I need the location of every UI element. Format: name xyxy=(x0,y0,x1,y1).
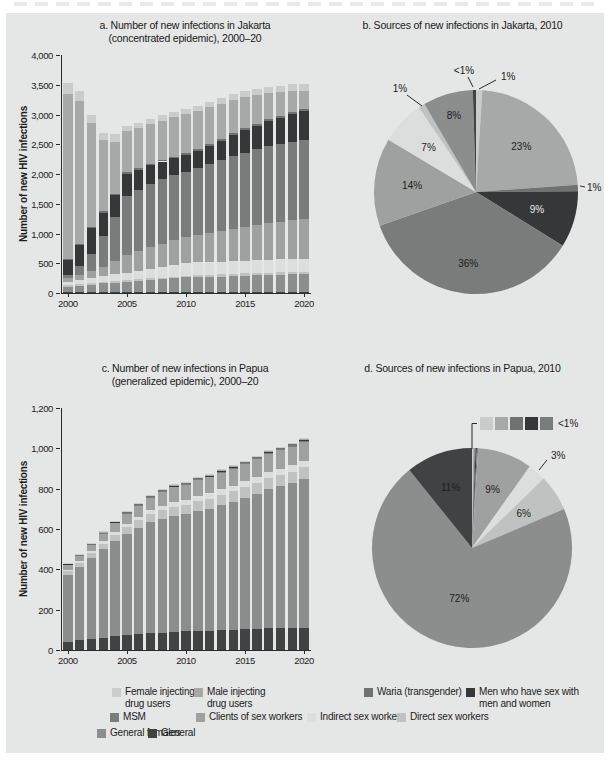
bar-segment-clients xyxy=(63,278,72,282)
legend-swatch-indirect xyxy=(307,713,316,722)
bar-segment-general xyxy=(122,292,131,293)
bar-segment-indirect xyxy=(158,506,167,510)
bar-segment-direct xyxy=(240,273,249,275)
bar-segment-msmw xyxy=(252,457,261,458)
bar-segment-indirect xyxy=(299,259,308,272)
bar-segment-direct xyxy=(110,535,119,541)
x-tick-mark xyxy=(127,651,128,654)
bar-segment-clients xyxy=(193,235,202,262)
bar-segment-indirect xyxy=(205,262,214,275)
bar-segment-msmw xyxy=(158,490,167,491)
bar-segment-indirect xyxy=(75,280,84,284)
bar-segment-female_idu xyxy=(276,86,285,92)
bar-segment-direct xyxy=(146,514,155,522)
bar-segment-male_idu xyxy=(276,92,285,116)
pie-svg-d: 9%3%6%72%11%<1% xyxy=(355,410,611,658)
bar-segment-direct xyxy=(63,571,72,575)
bar-segment-general xyxy=(181,292,190,293)
bar-segment-general xyxy=(87,639,96,650)
bar-segment-male_idu xyxy=(99,140,108,211)
bar-segment-direct xyxy=(264,273,273,275)
bar-segment-male_idu xyxy=(134,128,143,168)
bar-segment-indirect xyxy=(205,494,214,499)
bar-segment-general xyxy=(158,633,167,650)
bar-segment-msm xyxy=(299,441,308,442)
bar-segment-direct xyxy=(110,281,119,283)
bar-segment-female_idu xyxy=(181,109,190,114)
pie-leader-line-indirect xyxy=(539,460,547,470)
callout-swatch-msm xyxy=(540,417,553,430)
pie-svg-b: 1%23%1%9%36%14%7%1%8%<1% xyxy=(360,55,611,303)
bar-segment-direct xyxy=(87,283,96,285)
bar-segment-general_females xyxy=(193,511,202,631)
bar-segment-male_idu xyxy=(299,91,308,109)
bar-segment-general xyxy=(240,629,249,650)
bar-segment-direct xyxy=(240,487,249,498)
bar-segment-general xyxy=(63,292,72,293)
bar-segment-general xyxy=(240,292,249,293)
bar-segment-male_idu xyxy=(122,131,131,172)
bar-segment-msmw xyxy=(217,471,226,472)
bar-segment-general_females xyxy=(276,275,285,292)
bar-segment-direct xyxy=(288,472,297,483)
bar-segment-clients xyxy=(217,231,226,261)
bar-segment-female_idu xyxy=(264,87,273,93)
y-tick-mark xyxy=(56,489,60,490)
bar-segment-msm xyxy=(75,266,84,275)
legend-label-waria: Waria (transgender) xyxy=(377,686,462,698)
bar-segment-indirect xyxy=(276,259,285,272)
bar-segment-clients xyxy=(229,469,238,486)
bar-segment-indirect xyxy=(87,278,96,283)
bar-segment-general_females xyxy=(288,274,297,292)
bar-segment-indirect xyxy=(169,265,178,277)
bar-segment-general_females xyxy=(240,276,249,292)
bar-segment-direct xyxy=(122,527,131,534)
bar-segment-direct xyxy=(87,553,96,558)
bar-segment-female_idu xyxy=(134,123,143,128)
bar-segment-indirect xyxy=(110,274,119,281)
bar-segment-indirect xyxy=(264,472,273,478)
bar-segment-general_females xyxy=(288,483,297,628)
pie-outside-label-female_idu: 1% xyxy=(501,71,516,82)
bar-segment-direct xyxy=(288,272,297,274)
bar-segment-msm xyxy=(229,156,238,229)
bar-segment-general xyxy=(193,631,202,650)
bar-segment-indirect xyxy=(63,570,72,572)
bar-segment-male_idu xyxy=(75,101,84,244)
bar-segment-clients xyxy=(122,255,131,273)
bar-segment-msm xyxy=(264,146,273,223)
bar-segment-msm xyxy=(205,476,214,477)
bar-segment-msm xyxy=(299,140,308,219)
bar-segment-general xyxy=(264,292,273,293)
bar-segment-direct xyxy=(229,274,238,276)
bar-segment-clients xyxy=(181,485,190,500)
bar-segment-msmw xyxy=(110,195,119,217)
bar-segment-female_idu xyxy=(217,98,226,103)
bar-segment-msm xyxy=(229,467,238,468)
bar-segment-direct xyxy=(205,275,214,277)
bar-segment-msmw xyxy=(205,476,214,477)
bar-segment-indirect xyxy=(181,263,190,276)
bar-segment-general xyxy=(288,628,297,650)
bar-segment-female_idu xyxy=(288,84,297,91)
bar-segment-msmw xyxy=(264,121,273,146)
bar-segment-general xyxy=(217,292,226,293)
pie-label-male_idu: 23% xyxy=(511,141,531,152)
bar-segment-female_idu xyxy=(146,119,155,124)
y-axis-line xyxy=(61,408,62,651)
legend-swatch-waria xyxy=(364,688,373,697)
bar-segment-direct xyxy=(205,499,214,509)
bar-segment-waria xyxy=(229,133,238,135)
bar-segment-general_females xyxy=(276,486,285,628)
bar-segment-clients xyxy=(87,545,96,551)
bar-segment-waria xyxy=(288,112,297,114)
bar-segment-general_females xyxy=(75,286,84,293)
bar-segment-clients xyxy=(99,267,108,276)
bar-segment-clients xyxy=(75,275,84,280)
bar-segment-indirect xyxy=(146,510,155,514)
bar-segment-msm xyxy=(181,172,190,238)
bar-segment-general_females xyxy=(63,575,72,642)
bar-segment-msm xyxy=(217,160,226,231)
bar-segment-indirect xyxy=(99,541,108,543)
bar-segment-msm xyxy=(122,513,131,514)
